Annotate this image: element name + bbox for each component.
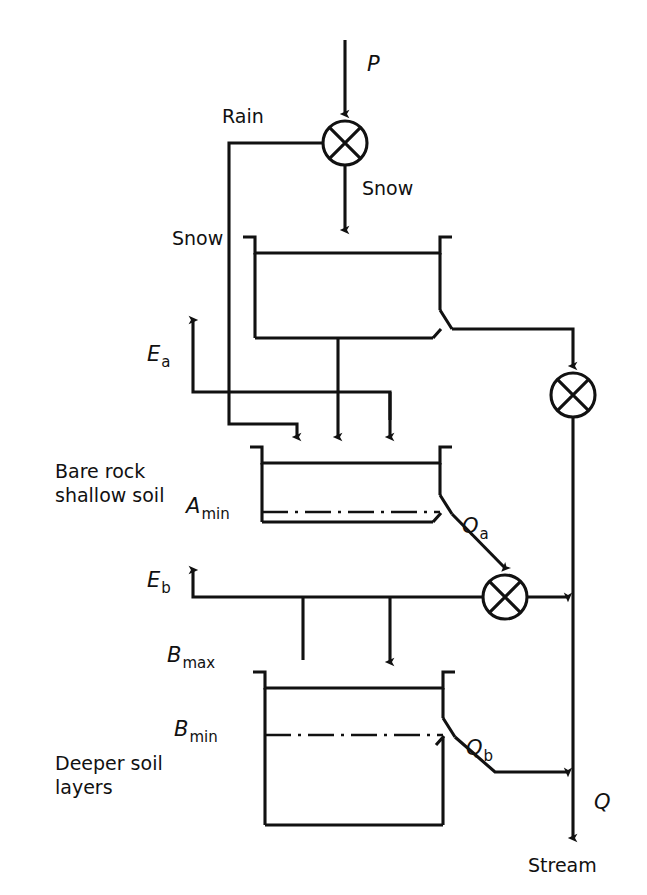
reservoir-a-outline (250, 447, 452, 463)
b-max-symbol: B (167, 643, 181, 667)
b-max-label: Bmax (167, 643, 214, 667)
evaporation-a-subscript: a (161, 353, 170, 371)
diagram-canvas: P Rain Snow Snow Ea Bare rockshallow soi… (0, 0, 647, 895)
b-min-symbol: B (174, 717, 188, 741)
rain-label: Rain (222, 106, 264, 128)
snow-store-label: Snow (172, 228, 223, 250)
evaporation-a-line (193, 320, 390, 420)
quickflow-a-subscript: a (480, 525, 489, 543)
b-min-label: Bmin (174, 717, 217, 741)
snowmelt-outflow-line (452, 329, 573, 366)
b-max-subscript: max (182, 654, 215, 672)
evaporation-b-symbol: E (147, 568, 160, 592)
evaporation-a-label: Ea (147, 342, 169, 366)
upper-flow-junction-cross (557, 379, 588, 410)
reservoir-a-outlet-notch (433, 495, 452, 522)
bare-rock-store-label-line1: Bare rock (55, 460, 145, 482)
deeper-soil-label-line1: Deeper soil (55, 752, 163, 774)
deeper-soil-label-line2: layers (55, 776, 113, 798)
stream-label: Stream (528, 855, 597, 877)
a-min-symbol: A (186, 494, 200, 518)
evaporation-b-label: Eb (147, 568, 170, 592)
lower-flow-junction-cross (489, 581, 520, 612)
precipitation-label: P (367, 52, 380, 76)
snow-reservoir-outline (243, 237, 452, 253)
a-min-label: Amin (186, 494, 229, 518)
evaporation-b-subscript: b (161, 579, 171, 597)
b-min-subscript: min (189, 728, 217, 746)
total-flow-label: Q (594, 790, 611, 814)
precipitation-splitter-cross (329, 127, 360, 158)
bare-rock-store-label-line2: shallow soil (55, 484, 164, 506)
deeper-soil-store-label: Deeper soillayers (55, 752, 163, 800)
quickflow-a-label: Qa (462, 514, 488, 538)
evaporation-b-line (193, 570, 483, 597)
snow-reservoir-outlet-notch (433, 310, 452, 338)
baseflow-b-label: Qb (466, 736, 492, 760)
baseflow-b-symbol: Q (466, 736, 483, 760)
quickflow-a-symbol: Q (462, 514, 479, 538)
reservoir-b-outline (253, 672, 455, 688)
a-min-subscript: min (201, 505, 229, 523)
bare-rock-store-label: Bare rockshallow soil (55, 460, 164, 508)
reservoir-b-outlet-notch (436, 718, 455, 745)
evaporation-a-symbol: E (147, 342, 160, 366)
snow-flow-label: Snow (362, 178, 413, 200)
baseflow-b-subscript: b (484, 747, 494, 765)
